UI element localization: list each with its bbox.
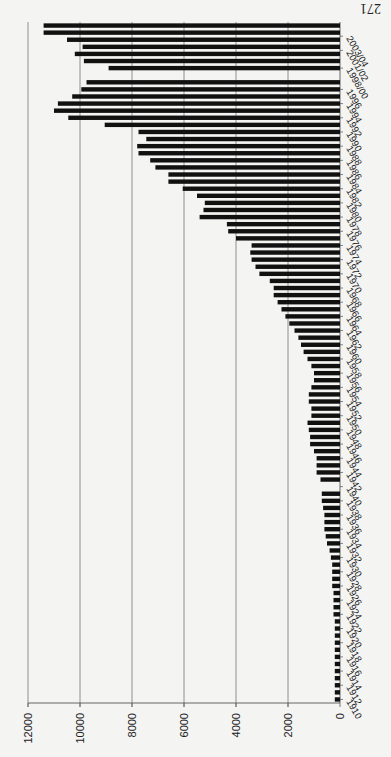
bar xyxy=(227,222,340,226)
bar xyxy=(335,648,340,652)
bar xyxy=(332,570,340,574)
bar xyxy=(72,94,340,98)
bar xyxy=(314,449,340,453)
value-tick-label: 8000 xyxy=(126,713,138,737)
bar xyxy=(236,236,340,240)
bar xyxy=(308,421,341,425)
bar xyxy=(321,477,341,481)
bar xyxy=(311,414,340,418)
bar xyxy=(314,378,340,382)
bar xyxy=(75,52,340,56)
value-tick-label: 4000 xyxy=(230,713,242,737)
bar xyxy=(58,101,340,105)
bar xyxy=(311,364,340,368)
bar xyxy=(250,250,340,254)
value-tick-label: 12000 xyxy=(22,713,34,744)
bar xyxy=(168,172,340,176)
bar xyxy=(228,229,340,233)
bar xyxy=(150,158,340,162)
bar xyxy=(168,179,340,183)
bar xyxy=(334,605,341,609)
value-tick-label: 0 xyxy=(334,713,346,719)
bar xyxy=(44,23,340,27)
bar xyxy=(335,690,340,694)
bar xyxy=(197,194,340,198)
bar xyxy=(335,641,340,645)
bar xyxy=(311,406,340,410)
bar xyxy=(335,655,340,659)
bar xyxy=(139,130,341,134)
bar xyxy=(274,286,340,290)
bar xyxy=(334,591,341,595)
bar xyxy=(146,137,340,141)
bar xyxy=(332,562,340,566)
bar xyxy=(309,399,340,403)
bar xyxy=(330,548,340,552)
bar xyxy=(139,151,341,155)
bar-chart: 0200040006000800010000120001910191219141… xyxy=(0,0,391,757)
bar xyxy=(323,506,340,510)
bar xyxy=(309,392,340,396)
bar xyxy=(332,584,340,588)
bar xyxy=(259,272,340,276)
bar xyxy=(295,328,341,332)
bar xyxy=(322,492,340,496)
bar xyxy=(317,470,340,474)
bar xyxy=(326,534,340,538)
bar xyxy=(183,187,340,191)
bar xyxy=(310,435,340,439)
bar xyxy=(304,350,340,354)
bar xyxy=(335,676,340,680)
bar xyxy=(324,520,340,524)
bar xyxy=(105,123,340,127)
bar xyxy=(324,513,340,517)
bar xyxy=(252,243,340,247)
bar xyxy=(327,541,340,545)
bar xyxy=(310,442,340,446)
bar xyxy=(282,307,341,311)
bar xyxy=(81,87,340,91)
bar xyxy=(274,293,340,297)
bar xyxy=(301,343,340,347)
bar xyxy=(54,108,340,112)
bar xyxy=(252,257,340,261)
bar xyxy=(314,371,340,375)
bar xyxy=(84,59,340,63)
bar xyxy=(270,279,340,283)
bar xyxy=(317,456,340,460)
bar xyxy=(87,80,341,84)
bar xyxy=(256,265,341,269)
bar xyxy=(322,499,340,503)
bar xyxy=(317,463,340,467)
bar xyxy=(331,555,340,559)
bar xyxy=(335,633,340,637)
bar xyxy=(83,45,340,49)
bar xyxy=(137,144,340,148)
bar xyxy=(204,208,341,212)
value-tick-label: 2000 xyxy=(282,713,294,737)
bar xyxy=(335,683,340,687)
bar xyxy=(298,335,340,339)
bar xyxy=(278,300,340,304)
bar xyxy=(335,626,340,630)
bar xyxy=(335,669,340,673)
bar xyxy=(324,527,340,531)
bar xyxy=(334,612,341,616)
bar xyxy=(68,116,340,120)
bar xyxy=(109,66,340,70)
bar xyxy=(289,321,340,325)
bar xyxy=(335,697,340,701)
bar xyxy=(311,385,340,389)
bar xyxy=(335,662,340,666)
bar xyxy=(155,165,340,169)
value-tick-label: 10000 xyxy=(74,713,86,744)
bar xyxy=(285,314,340,318)
bar xyxy=(67,38,340,42)
bar xyxy=(205,201,340,205)
bar xyxy=(332,577,340,581)
bar xyxy=(44,30,340,34)
bar xyxy=(334,598,341,602)
bar xyxy=(200,215,340,219)
bar xyxy=(335,619,340,623)
bar xyxy=(309,428,340,432)
